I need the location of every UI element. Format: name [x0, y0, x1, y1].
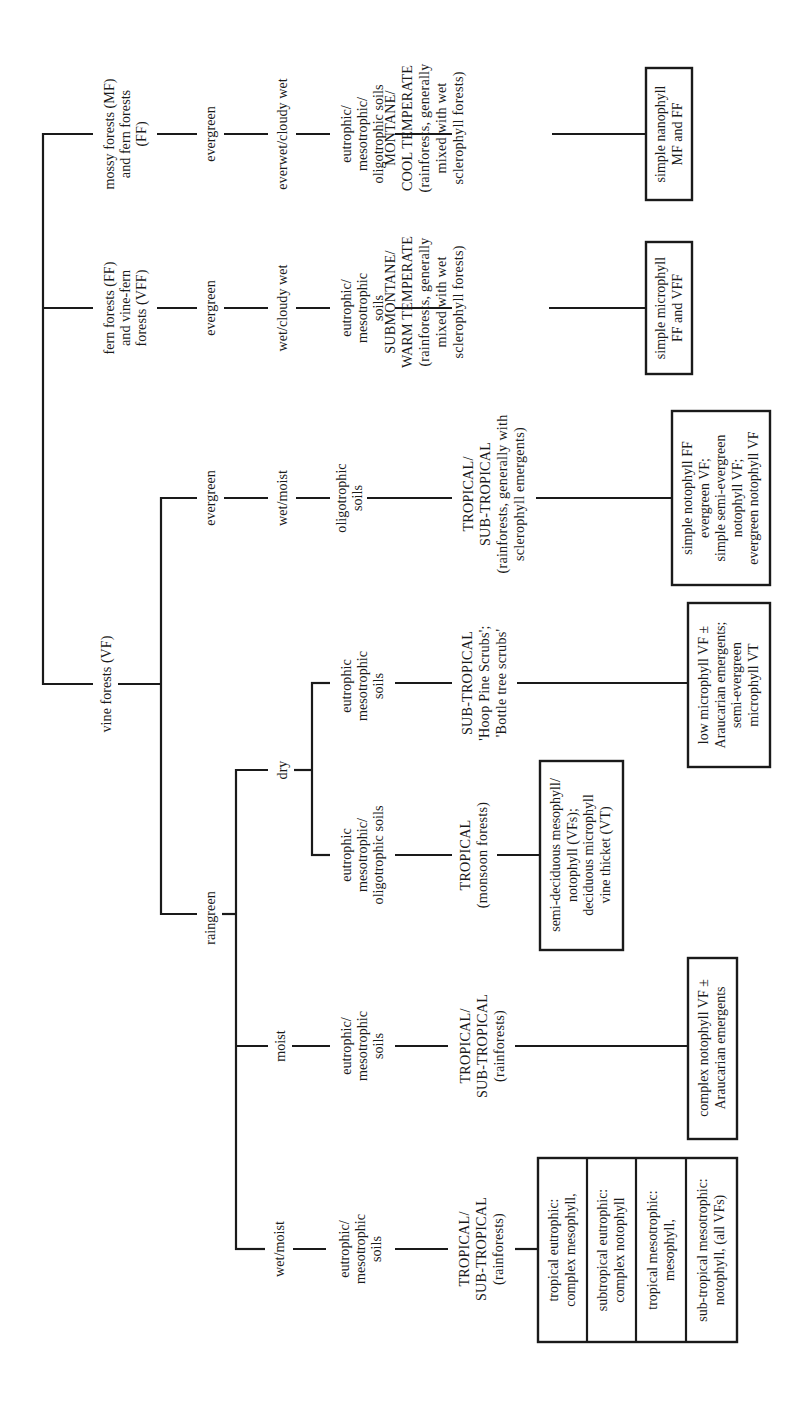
- label-soils: eutrophic/ mesotrophic/ oligotrophic soi…: [338, 85, 386, 184]
- label-dry: dry: [274, 761, 290, 780]
- label-evergreen: evergreen: [202, 280, 218, 336]
- label-fern-forests: fern forests (FF) and vine-fern forests …: [101, 262, 149, 355]
- label-raingreen: raingreen: [202, 891, 218, 945]
- label-tropical-eutrophic: tropical eutrophic: complex mesophyll,: [546, 1193, 579, 1307]
- label-subtropical-eutrophic: subtropical eutrophic: complex notophyll: [595, 1189, 628, 1311]
- label-tropical-mesotrophic: tropical mesotrophic: mesophyll,: [645, 1190, 678, 1309]
- forest-classification-diagram: mossy forests (MF) and fern forests (FF)…: [0, 0, 801, 1411]
- label-structural-type: simple microphyll FF and VFF: [653, 257, 686, 359]
- connector-lines: [0, 0, 801, 1411]
- label-structural-type: complex notophyll VF ± Araucarian emerge…: [696, 979, 729, 1117]
- label-soils: eutrophic mesotrophic/ oligotrophic soil…: [338, 806, 386, 905]
- label-mossy-forests: mossy forests (MF) and fern forests (FF): [101, 78, 149, 189]
- label-climate-rainforests: TROPICAL/ SUB-TROPICAL (rainforests): [457, 994, 508, 1098]
- label-climate-monsoon: TROPICAL (monsoon forests): [457, 802, 491, 908]
- label-subtropical-mesotrophic: sub-tropical mesotrophic: notophyll, (al…: [695, 1178, 728, 1321]
- label-soils: eutrophic/ mesotrophic soils: [338, 273, 386, 343]
- label-structural-type: simple nanophyll MF and FF: [653, 86, 686, 183]
- label-soils: eutrophic mesotrophic soils: [338, 651, 386, 721]
- label-structural-type: low microphyll VF ± Araucarian emergents…: [696, 622, 762, 749]
- label-structural-type: simple notophyll FF evergreen VF; simple…: [680, 431, 763, 564]
- label-moisture: wet/cloudy wet: [274, 264, 290, 351]
- label-moisture: everwet/cloudy wet: [274, 78, 290, 189]
- label-moist: moist: [272, 1030, 288, 1062]
- label-climate-rainforests: TROPICAL/ SUB-TROPICAL (rainforests): [456, 1197, 507, 1301]
- label-moisture: wet/moist: [274, 470, 290, 526]
- label-soils: eutrophic/ mesotrophic soils: [336, 1214, 384, 1284]
- label-soils: oligotrophic soils: [333, 463, 365, 532]
- label-climate-submontane: SUBMONTANE/ WARM TEMPERATE (rainforests,…: [382, 236, 467, 368]
- label-evergreen: evergreen: [202, 470, 218, 526]
- label-climate-tropical: TROPICAL/ SUB-TROPICAL (rainforests, gen…: [460, 415, 528, 574]
- label-soils: eutrophic/ mesotrophic soils: [338, 1011, 386, 1081]
- label-evergreen: evergreen: [202, 106, 218, 162]
- label-climate-montane: MONTANE/ COOL TEMPERATE (rainforests, ge…: [382, 63, 467, 192]
- label-structural-type: semi-deciduous mesophyll/ notophyll (VFs…: [548, 778, 614, 932]
- label-climate-subtropical-scrubs: SUB-TROPICAL 'Hoop Pine Scrubs'; 'Bottle…: [459, 625, 510, 740]
- label-vine-forests: vine forests (VF): [98, 636, 114, 733]
- label-wet-moist: wet/moist: [271, 1221, 287, 1277]
